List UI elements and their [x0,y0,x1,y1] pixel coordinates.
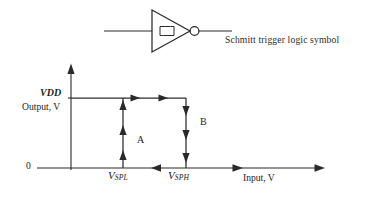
curve-b-arrowhead-2 [182,130,189,140]
x-axis-tick-vsph-label: VSPH [168,170,189,182]
y-axis-tick-vdd-label: VDD [40,88,61,98]
curve-bottom-return-arrowhead [151,164,161,171]
curve-a-arrowhead-2 [119,125,126,135]
x-axis-arrowhead [315,164,326,171]
hysteresis-loop-icon [160,27,174,36]
curve-b-arrowhead-3 [182,153,189,163]
branch-label-a: A [137,135,144,145]
symbol-caption: Schmitt trigger logic symbol [225,35,339,45]
inversion-bubble-icon [190,27,199,36]
curve-top-arrowhead-2 [159,95,169,102]
x-axis-mid-arrowhead [233,164,244,171]
curve-a-arrowhead-1 [119,100,126,110]
curve-a-arrowhead-3 [119,150,126,160]
schmitt-trigger-figure: .ln{stroke:#2a2a2a;stroke-width:1.1;fill… [0,0,365,199]
y-axis-label: Output, V [22,102,60,112]
curve-top-arrowhead-1 [131,95,141,102]
inverter-triangle-icon [152,10,190,52]
curve-b-arrowhead-1 [182,106,189,116]
schmitt-trigger-symbol [104,10,232,52]
vspl-subscript: SPL [115,173,128,182]
branch-label-b: B [200,117,207,127]
vsph-symbol: V [168,169,175,181]
vsph-subscript: SPH [175,173,190,182]
y-axis-arrowhead [67,64,74,75]
hysteresis-curve [68,95,190,172]
plot-axes [37,64,325,172]
vspl-symbol: V [108,169,115,181]
x-axis-label: Input, V [243,173,275,183]
x-axis-tick-vspl-label: VSPL [108,170,128,182]
origin-label: 0 [26,161,31,171]
